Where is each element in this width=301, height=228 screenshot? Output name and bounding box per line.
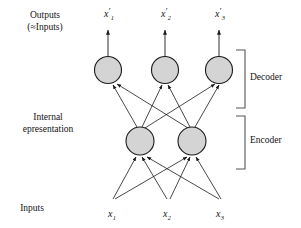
output-var-3-base: x (215, 8, 219, 19)
inputs-label: Inputs (6, 203, 58, 215)
node-hidden-2 (178, 127, 206, 155)
autoencoder-diagram: Outputs (≈Inputs) Internal epresentation… (0, 0, 301, 228)
internal-label-line1: Internal (2, 112, 94, 124)
edge-in2-hid2 (170, 157, 190, 199)
output-variable-2: x′2 (161, 8, 171, 19)
output-var-1-sub: 1 (111, 14, 114, 21)
input-var-3-sub: 3 (221, 214, 224, 221)
decoder-bracket-label: Decoder (250, 72, 282, 83)
edge-hid1-out1 (113, 85, 137, 127)
output-var-3-sub: 3 (222, 14, 225, 21)
internal-label-line2: epresentation (2, 124, 94, 136)
output-arrows (108, 30, 219, 56)
input-var-2-sub: 2 (168, 214, 171, 221)
output-variable-1: x′1 (104, 8, 114, 19)
output-var-1-base: x (104, 8, 108, 19)
decoder-nodes (95, 57, 233, 84)
output-var-2-sub: 2 (168, 14, 171, 21)
input-var-2-base: x (163, 208, 167, 219)
output-variable-3: x′3 (215, 8, 225, 19)
edges-input-to-hidden (113, 157, 221, 199)
encoder-bracket-label: Encoder (250, 135, 282, 146)
input-var-3-base: x (216, 208, 220, 219)
brackets (236, 50, 245, 169)
internal-representation-label: Internal epresentation (2, 112, 94, 135)
input-variable-2: x2 (163, 208, 171, 219)
encoder-nodes (126, 127, 206, 155)
node-output-2 (152, 57, 179, 84)
outputs-label: Outputs (≈Inputs) (6, 10, 84, 33)
outputs-label-line2: (≈Inputs) (6, 22, 84, 34)
edge-hid1-out3 (145, 84, 215, 128)
outputs-label-line1: Outputs (6, 10, 84, 22)
decoder-bracket (236, 50, 245, 108)
edge-hid2-out3 (195, 85, 219, 127)
input-variable-1: x1 (108, 208, 116, 219)
node-output-1 (95, 57, 122, 84)
encoder-bracket (236, 116, 245, 169)
node-output-3 (206, 57, 233, 84)
edge-in1-hid2 (115, 157, 187, 199)
edges-hidden-to-output (113, 84, 219, 128)
input-var-1-base: x (108, 208, 112, 219)
input-variable-3: x3 (216, 208, 224, 219)
output-var-2-base: x (161, 8, 165, 19)
edge-in2-hid1 (142, 157, 167, 199)
edge-hid2-out2 (168, 85, 190, 127)
edge-hid2-out1 (117, 84, 188, 128)
node-hidden-1 (126, 127, 154, 155)
input-var-1-sub: 1 (113, 214, 116, 221)
edge-in1-hid1 (113, 157, 136, 199)
